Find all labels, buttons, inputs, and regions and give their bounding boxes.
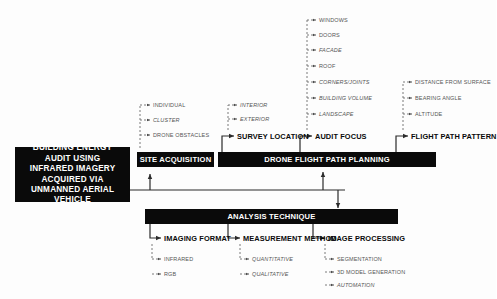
root-title-line-5: UNMANNED AERIAL	[31, 185, 114, 195]
root-title-line-3: INFRARED IMAGERY	[30, 164, 116, 174]
bar-drone-flight-path-planning: DRONE FLIGHT PATH PLANNING	[218, 152, 436, 167]
root-title-box: BUILDING ENERGY AUDIT USING INFRARED IMA…	[15, 147, 130, 202]
leaf-audit-focus-4: CORNERS/JOINTS	[319, 79, 370, 85]
leaf-audit-focus-2: FACADE	[319, 47, 342, 53]
leaf-audit-focus-1: DOORS	[319, 32, 340, 38]
root-title-line-1: BUILDING ENERGY	[33, 143, 112, 153]
leaf-imaging-format-0: INFRARED	[164, 256, 193, 262]
leaf-image-processing-2: AUTOMATION	[337, 282, 375, 288]
caption-survey-location: SURVEY LOCATION	[237, 132, 309, 141]
leaf-site-acquisition-2: DRONE OBSTACLES	[153, 132, 209, 138]
leaf-flight-path-pattern-1: BEARING ANGLE	[415, 95, 462, 101]
leaf-audit-focus-6: LANDSCAPE	[319, 111, 354, 117]
caption-measurement-method: MEASUREMENT METHOD	[243, 234, 337, 243]
leaf-imaging-format-1: RGB	[164, 271, 176, 277]
leaf-flight-path-pattern-0: DISTANCE FROM SURFACE	[415, 79, 491, 85]
root-title-line-4: ACQUIRED VIA	[42, 175, 104, 185]
leaf-measurement-method-0: QUANTITATIVE	[252, 256, 293, 262]
leaf-audit-focus-5: BUILDING VOLUME	[319, 95, 372, 101]
caption-image-processing: IMAGE PROCESSING	[328, 234, 405, 243]
leaf-site-acquisition-0: INDIVIDUAL	[153, 102, 185, 108]
root-title-line-2: AUDIT USING	[45, 154, 100, 164]
leaf-audit-focus-3: ROOF	[319, 63, 336, 69]
leaf-survey-location-0: INTERIOR	[240, 102, 267, 108]
leaf-image-processing-0: SEGMENTATION	[337, 256, 382, 262]
bar-drone-flight-path-planning-label: DRONE FLIGHT PATH PLANNING	[264, 155, 390, 164]
caption-flight-path-pattern: FLIGHT PATH PATTERN	[411, 132, 497, 141]
leaf-audit-focus-0: WINDOWS	[319, 17, 348, 23]
bar-analysis-technique-label: ANALYSIS TECHNIQUE	[227, 212, 315, 221]
bar-analysis-technique: ANALYSIS TECHNIQUE	[145, 209, 398, 224]
bar-site-acquisition-label: SITE ACQUISITION	[140, 155, 212, 164]
leaf-survey-location-1: EXTERIOR	[240, 116, 269, 122]
root-title-line-6: VEHICLE	[54, 195, 91, 205]
leaf-site-acquisition-1: CLUSTER	[153, 117, 180, 123]
leaf-flight-path-pattern-2: ALTITUDE	[415, 111, 442, 117]
caption-audit-focus: AUDIT FOCUS	[315, 132, 367, 141]
caption-imaging-format: IMAGING FORMAT	[164, 234, 231, 243]
leaf-measurement-method-1: QUALITATIVE	[252, 271, 289, 277]
leaf-image-processing-1: 3D MODEL GENERATION	[337, 269, 405, 275]
bar-site-acquisition: SITE ACQUISITION	[137, 152, 214, 167]
